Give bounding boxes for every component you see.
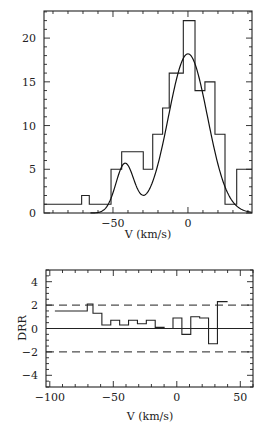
histogram-steps — [44, 21, 252, 205]
bottom-x-axis-label: V (km/s) — [126, 410, 173, 423]
x-tick-label: −50 — [102, 391, 125, 404]
histogram-panel: −50005101520 — [22, 11, 252, 230]
y-tick-label: 5 — [29, 163, 36, 176]
y-tick-label: 15 — [22, 76, 36, 89]
residual-panel: −100−50050−4−2024 — [22, 270, 253, 404]
figure: −50005101520 V (km/s) −100−50050−4−2024 … — [0, 0, 267, 433]
y-tick-label: 20 — [22, 32, 36, 45]
y-tick-label: 0 — [29, 207, 36, 220]
gaussian-fit-curve — [90, 54, 251, 213]
y-tick-label: 10 — [22, 120, 36, 133]
plot-frame — [44, 11, 252, 213]
top-x-axis-label: V (km/s) — [124, 228, 171, 241]
drr-steps — [55, 302, 228, 344]
y-tick-label: 2 — [31, 299, 38, 312]
x-tick-label: −50 — [101, 217, 124, 230]
x-tick-label: 0 — [173, 391, 180, 404]
bottom-y-axis-label: DRR — [16, 315, 29, 341]
x-tick-label: 50 — [233, 391, 247, 404]
y-tick-label: 4 — [31, 276, 38, 289]
y-tick-label: 0 — [31, 323, 38, 336]
y-tick-label: −2 — [22, 346, 38, 359]
y-tick-label: −4 — [22, 369, 38, 382]
x-tick-label: −100 — [35, 391, 65, 404]
x-tick-label: 0 — [184, 217, 191, 230]
